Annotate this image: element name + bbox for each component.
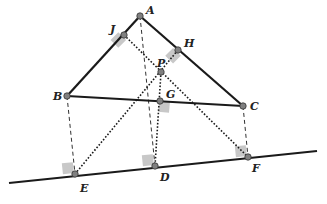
point-j — [121, 32, 127, 38]
side-ac — [140, 16, 243, 106]
point-c — [240, 103, 246, 109]
point-b — [64, 93, 70, 99]
dotted-segment-pd — [155, 72, 161, 166]
side-bc — [67, 96, 243, 106]
label-j: J — [108, 23, 116, 36]
point-a — [137, 13, 143, 19]
dashed-segment-ad — [140, 16, 155, 166]
point-f — [245, 154, 251, 160]
triangle-abc — [67, 16, 243, 106]
point-h — [175, 47, 181, 53]
label-g: G — [166, 88, 175, 101]
label-a: A — [145, 4, 155, 17]
label-h: H — [183, 37, 195, 50]
right-angle-marks — [62, 32, 247, 174]
dashed-segment-be — [67, 96, 75, 174]
point-e — [72, 171, 78, 177]
point-g — [157, 98, 163, 104]
side-ab — [67, 16, 140, 96]
label-p: P — [156, 57, 166, 70]
label-c: C — [250, 100, 259, 113]
label-b: B — [52, 90, 62, 103]
label-e: E — [79, 182, 89, 195]
geometry-diagram: AJHPBGCEDF — [0, 0, 327, 204]
point-d — [152, 163, 158, 169]
dotted-segment-jf — [124, 35, 248, 157]
label-d: D — [159, 171, 170, 184]
label-f: F — [251, 162, 261, 175]
